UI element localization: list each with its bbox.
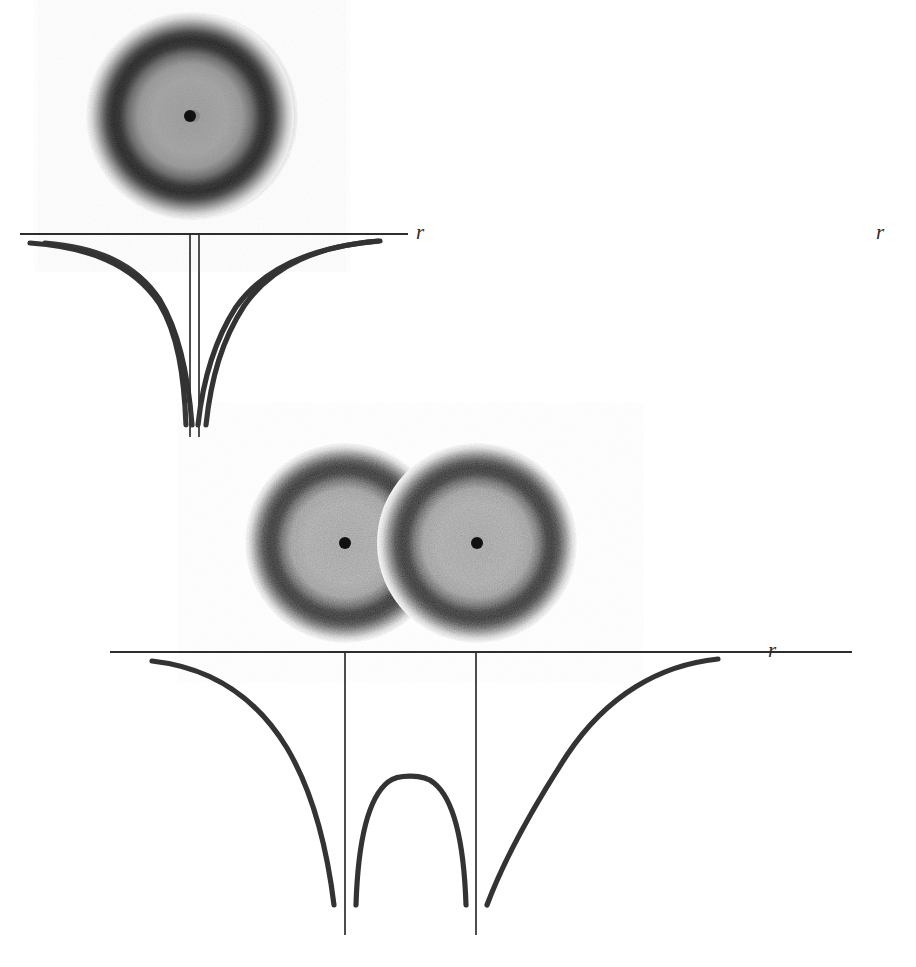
potential-curve-central-hump [356,776,466,905]
panel-top-right: r [458,0,916,460]
axis-label-r: r [768,640,776,661]
potential-curve-right-branch [198,241,380,425]
potential-curve-left-branch [30,243,186,425]
panel-bottom: r [0,440,916,967]
figure-root: r [0,0,916,967]
axis-label-r: r [876,222,884,243]
potential-curve-outer-right [487,659,718,905]
potential-curve-outer-left [152,661,334,905]
potential-plot-binary [0,440,916,967]
